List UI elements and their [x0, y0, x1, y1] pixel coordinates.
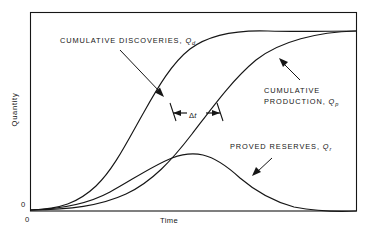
label-proved-reserves: PROVED RESERVES, Qr: [230, 141, 331, 155]
reserves-subscript: r: [329, 146, 331, 152]
discoveries-subscript: d: [192, 40, 195, 46]
production-label-line2-wrap: PRODUCTION, Qp: [264, 96, 338, 110]
label-cumulative-discoveries: CUMULATIVE DISCOVERIES, Qd: [60, 35, 195, 49]
production-label-line2: PRODUCTION,: [264, 97, 326, 106]
production-leader-line: [283, 63, 300, 80]
reserves-leader-line: [257, 158, 272, 172]
hubbert-curve-figure: Quantity Time 0 0 CUMULATIVE DISCOVERIES…: [0, 0, 371, 242]
y-axis-title: Quantity: [10, 80, 19, 140]
production-leader-arrowhead: [279, 58, 288, 67]
label-cumulative-production: CUMULATIVE PRODUCTION, Qp: [264, 85, 338, 110]
reserves-leader-arrowhead: [252, 167, 261, 176]
x-axis-origin-label: 0: [25, 215, 30, 224]
delta-t-right-tick: [217, 103, 223, 121]
x-axis-title: Time: [160, 216, 178, 225]
delta-t-variable: t: [194, 111, 196, 120]
y-axis-zero-tick-label: 0: [21, 200, 26, 209]
discoveries-leader-line: [120, 50, 160, 92]
production-label-line1: CUMULATIVE: [264, 85, 338, 96]
discoveries-label-text: CUMULATIVE DISCOVERIES,: [60, 36, 182, 45]
label-delta-t: Δt: [189, 110, 197, 121]
delta-t-right-arrowhead: [212, 110, 220, 116]
discoveries-leader-arrowhead: [155, 88, 164, 98]
reserves-label-text: PROVED RESERVES,: [230, 142, 320, 151]
curve-proved-reserves: [31, 154, 356, 211]
delta-t-left-tick: [170, 103, 176, 121]
production-subscript: p: [335, 101, 338, 107]
